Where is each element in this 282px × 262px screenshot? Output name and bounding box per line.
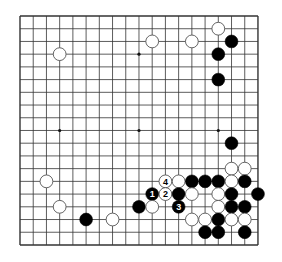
white-stone: 2 <box>159 188 172 201</box>
black-stone <box>199 226 212 239</box>
black-stone <box>212 175 225 188</box>
white-stone <box>185 213 198 226</box>
star-point <box>137 129 140 132</box>
white-stone <box>212 22 225 35</box>
white-stone <box>238 213 251 226</box>
white-stone <box>238 162 251 175</box>
black-stone: 3 <box>172 200 185 213</box>
black-stone <box>225 200 238 213</box>
black-stone <box>185 175 198 188</box>
star-point <box>217 129 220 132</box>
go-board[interactable]: 4123 <box>0 0 282 262</box>
black-stone <box>212 226 225 239</box>
black-stone <box>225 188 238 201</box>
black-stone <box>212 48 225 61</box>
black-stone <box>212 213 225 226</box>
black-stone <box>212 73 225 86</box>
white-stone <box>53 200 66 213</box>
white-stone <box>53 48 66 61</box>
black-stone <box>238 200 251 213</box>
star-point <box>137 53 140 56</box>
white-stone <box>225 175 238 188</box>
white-stone <box>146 200 159 213</box>
white-stone <box>185 188 198 201</box>
black-stone <box>172 188 185 201</box>
white-stone <box>212 200 225 213</box>
black-stone <box>238 175 251 188</box>
black-stone <box>252 188 265 201</box>
white-stone <box>106 213 119 226</box>
white-stone <box>225 213 238 226</box>
black-stone <box>199 175 212 188</box>
black-stone: 1 <box>146 188 159 201</box>
move-number-label: 3 <box>176 202 181 212</box>
white-stone: 4 <box>159 175 172 188</box>
black-stone <box>225 137 238 150</box>
white-stone <box>146 35 159 48</box>
white-stone <box>185 35 198 48</box>
star-point <box>58 129 61 132</box>
black-stone <box>80 213 93 226</box>
white-stone <box>40 175 53 188</box>
move-number-label: 2 <box>163 189 168 199</box>
white-stone <box>225 162 238 175</box>
white-stone <box>199 213 212 226</box>
move-number-label: 4 <box>163 177 168 187</box>
move-number-label: 1 <box>150 189 155 199</box>
white-stone <box>172 175 185 188</box>
black-stone <box>225 35 238 48</box>
white-stone <box>212 188 225 201</box>
black-stone <box>238 226 251 239</box>
black-stone <box>133 200 146 213</box>
